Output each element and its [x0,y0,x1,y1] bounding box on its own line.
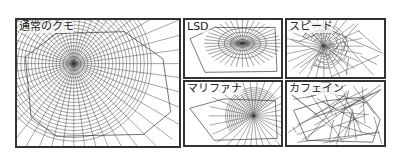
panel-caffeine: カフェイン [285,80,386,147]
panel-label: 通常のクモ [19,21,74,33]
panel-normal-spider: 通常のクモ [15,18,181,148]
panel-label: マリファナ [187,83,242,95]
panel-marijuana: マリファナ [183,80,283,147]
panel-label: LSD [187,21,209,33]
web-drawing [17,20,179,146]
panel-label: カフェイン [289,83,344,95]
panel-label: スピード [289,21,333,33]
panel-speed: スピード [285,18,386,79]
panel-lsd: LSD [183,18,283,79]
